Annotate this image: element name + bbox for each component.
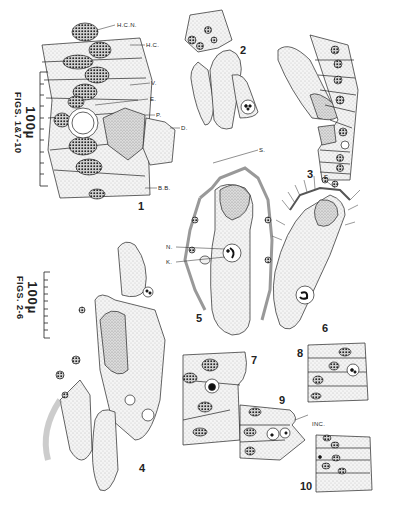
label-bb: B.B. xyxy=(158,185,171,191)
label-s: S. xyxy=(259,147,265,153)
scale-label-1: 100µ FIGS. 1&7-10 xyxy=(13,92,38,154)
label-p: P. xyxy=(156,112,162,118)
label-e-fig6: E. xyxy=(324,174,330,180)
figure-5 xyxy=(185,168,272,335)
label-v: V. xyxy=(151,80,157,86)
label-k: K. xyxy=(166,259,172,265)
figure-6 xyxy=(272,176,360,329)
figure-number-3: 3 xyxy=(307,168,313,180)
scale-bar-2 xyxy=(44,272,50,338)
label-hc: H.C. xyxy=(146,42,159,48)
figure-number-7: 7 xyxy=(251,354,257,366)
figure-7 xyxy=(183,352,246,445)
figure-number-9: 9 xyxy=(279,394,285,406)
figure-number-1: 1 xyxy=(138,200,144,212)
scale-figs-2: FIGS. 2-6 xyxy=(15,276,25,320)
scale-value-1: 100µ xyxy=(23,92,38,154)
plate-illustration xyxy=(0,0,394,509)
figure-number-8: 8 xyxy=(297,347,303,359)
label-d: D. xyxy=(181,125,188,131)
figure-number-6: 6 xyxy=(322,322,328,334)
scale-value-2: 100µ xyxy=(25,276,40,320)
figure-4 xyxy=(46,242,165,491)
figure-number-4: 4 xyxy=(139,462,145,474)
figure-8 xyxy=(308,343,368,402)
scale-label-2: 100µ FIGS. 2-6 xyxy=(15,276,40,320)
label-hcn: H.C.N. xyxy=(117,22,137,28)
figure-number-10: 10 xyxy=(300,480,312,492)
scale-figs-1: FIGS. 1&7-10 xyxy=(13,92,23,154)
figure-10 xyxy=(316,435,372,492)
figure-9 xyxy=(240,405,305,460)
figure-3 xyxy=(278,35,358,180)
figure-number-2: 2 xyxy=(240,44,246,56)
figure-number-5: 5 xyxy=(196,312,202,324)
label-e-fig1: E. xyxy=(150,96,156,102)
label-n: N. xyxy=(166,244,173,250)
scale-bar-1 xyxy=(40,72,48,186)
label-inc: INC. xyxy=(312,421,325,427)
figure-2 xyxy=(185,10,258,129)
figure-1 xyxy=(42,23,175,199)
